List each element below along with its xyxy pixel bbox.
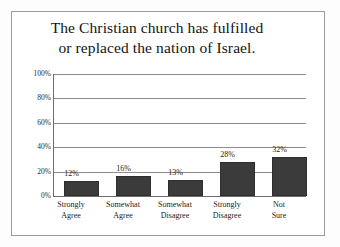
chart-title-line-1: The Christian church has fulfilled [14,18,300,38]
figure-canvas: The Christian church has fulfilled or re… [0,0,340,247]
gridline-100 [54,74,306,75]
y-axis-tick-label-100: 100% [11,70,51,78]
y-axis-tick-label-80: 80% [11,94,51,102]
gridline-80 [54,98,306,99]
bar-strongly-agree[interactable] [64,181,99,196]
y-axis-tick-label-20: 20% [11,168,51,176]
y-axis-tick-label-40: 40% [11,143,51,151]
bar-strongly-disagree[interactable] [220,162,255,196]
x-axis-baseline [54,196,306,197]
chart-title-line-2: or replaced the nation of Israel. [14,38,300,58]
bar-value-strongly-disagree: 28% [205,150,250,159]
bar-somewhat-agree[interactable] [116,176,151,196]
y-axis-tick-label-0: 0% [11,192,51,200]
bar-value-strongly-agree: 12% [49,169,94,178]
bar-value-not-sure: 32% [257,145,302,154]
bar-not-sure[interactable] [272,157,307,196]
chart-title: The Christian church has fulfilled or re… [14,18,300,58]
bar-somewhat-disagree[interactable] [168,180,203,196]
bar-value-somewhat-agree: 16% [101,164,146,173]
bar-value-somewhat-disagree: 13% [153,168,198,177]
x-axis-label-not-sure: Not Sure [248,200,310,221]
gridline-60 [54,123,306,124]
y-axis-tick-label-60: 60% [11,119,51,127]
x-axis-label-not-sure-line-1: Not [248,200,310,211]
x-axis-label-not-sure-line-2: Sure [248,211,310,222]
